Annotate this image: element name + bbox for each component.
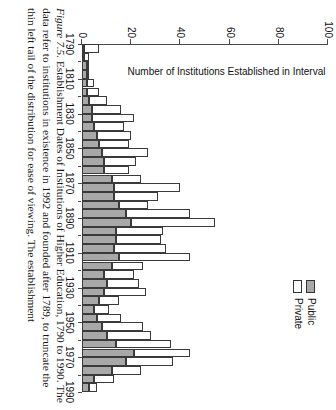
bar-group <box>82 322 144 331</box>
bar-segment-private <box>104 166 129 175</box>
bar-series-container <box>82 44 328 392</box>
category-axis-tick <box>78 392 82 393</box>
bar-group <box>82 175 141 184</box>
bar-group <box>82 105 121 114</box>
value-axis-tick-label: 80 <box>274 14 284 38</box>
bar-segment-private <box>102 322 144 331</box>
bar-segment-private <box>112 366 142 375</box>
bar-group <box>82 44 99 53</box>
legend-label-public: Public <box>306 298 316 325</box>
bar-group <box>82 235 161 244</box>
bar-segment-public <box>82 227 116 236</box>
legend-label-private: Private <box>293 298 303 329</box>
bar-group <box>82 340 171 349</box>
bar-segment-private <box>112 175 142 184</box>
bar-segment-public <box>82 166 104 175</box>
bar-group <box>82 148 148 157</box>
bar-group <box>82 331 151 340</box>
bar-segment-private <box>116 340 170 349</box>
bar-group <box>82 61 89 70</box>
bar-segment-public <box>82 175 112 184</box>
bar-group <box>82 262 144 271</box>
bar-segment-public <box>82 357 126 366</box>
bar-segment-private <box>102 148 149 157</box>
bar-group <box>82 131 131 140</box>
bar-group <box>82 183 180 192</box>
category-axis-minor-tick <box>78 270 81 271</box>
value-axis-tick-label: 40 <box>175 14 185 38</box>
category-axis-minor-tick <box>78 201 81 202</box>
bar-segment-public <box>82 105 92 114</box>
category-axis-minor-tick <box>78 305 81 306</box>
bar-segment-private <box>104 288 146 297</box>
bar-segment-public <box>82 305 94 314</box>
bar-segment-public <box>82 201 119 210</box>
bar-group <box>82 201 148 210</box>
bar-segment-private <box>87 88 99 97</box>
bar-segment-public <box>82 209 126 218</box>
bar-segment-private <box>94 305 109 314</box>
bar-segment-public <box>82 235 116 244</box>
bar-segment-public <box>82 331 107 340</box>
bar-segment-private <box>114 192 158 201</box>
bar-segment-private <box>99 140 129 149</box>
bar-segment-private <box>97 314 122 323</box>
bar-segment-private <box>104 270 134 279</box>
bar-group <box>82 218 215 227</box>
chart-legend: Public Private <box>293 280 316 329</box>
bar-segment-private <box>119 201 149 210</box>
category-axis-minor-tick <box>78 131 81 132</box>
category-axis-minor-tick <box>78 61 81 62</box>
bar-segment-public <box>82 375 94 384</box>
bar-group <box>82 375 114 384</box>
bar-segment-public <box>82 279 107 288</box>
category-axis-minor-tick <box>78 96 81 97</box>
bar-group <box>82 288 146 297</box>
bar-group <box>82 70 89 79</box>
bar-segment-private <box>116 227 163 236</box>
bar-segment-public <box>82 366 112 375</box>
bar-group <box>82 244 166 253</box>
bar-group <box>82 314 121 323</box>
value-axis-tick-label: 60 <box>225 14 235 38</box>
bar-group <box>82 270 134 279</box>
bar-segment-private <box>114 244 166 253</box>
category-axis-minor-tick <box>78 340 81 341</box>
bar-segment-public <box>82 340 116 349</box>
legend-swatch-private <box>294 280 303 293</box>
bar-segment-public <box>82 218 131 227</box>
bar-group <box>82 140 129 149</box>
bar-group <box>82 227 163 236</box>
bar-segment-public <box>82 114 92 123</box>
bar-group <box>82 53 89 62</box>
bar-segment-private <box>107 279 139 288</box>
category-axis-minor-tick <box>78 166 81 167</box>
figure-number: Figure 7.5. <box>55 8 67 58</box>
bar-segment-private <box>94 375 114 384</box>
bar-segment-private <box>134 349 191 358</box>
bar-segment-public <box>82 288 104 297</box>
bar-group <box>82 122 124 131</box>
bar-group <box>82 209 190 218</box>
legend-swatch-public <box>307 280 316 293</box>
bar-group <box>82 366 141 375</box>
bar-group <box>82 157 136 166</box>
bar-segment-private <box>126 209 190 218</box>
bar-segment-public <box>82 349 134 358</box>
bar-segment-private <box>84 44 99 53</box>
bar-segment-public <box>82 140 99 149</box>
category-axis-minor-tick <box>78 375 81 376</box>
bar-segment-public <box>82 296 99 305</box>
bar-segment-private <box>107 331 151 340</box>
bar-segment-private <box>89 96 106 105</box>
value-axis-tick-label: 0 <box>77 14 87 38</box>
bar-segment-private <box>104 157 136 166</box>
bar-segment-public <box>82 322 102 331</box>
chart-plot-area: 0204060801001790181018301850187018901910… <box>82 44 328 392</box>
figure-title: Establishment Dates of Institutions of H… <box>55 61 67 383</box>
bar-group <box>82 383 97 392</box>
bar-group <box>82 79 94 88</box>
bar-segment-private <box>116 235 160 244</box>
bar-group <box>82 253 190 262</box>
bar-segment-public <box>82 383 89 392</box>
